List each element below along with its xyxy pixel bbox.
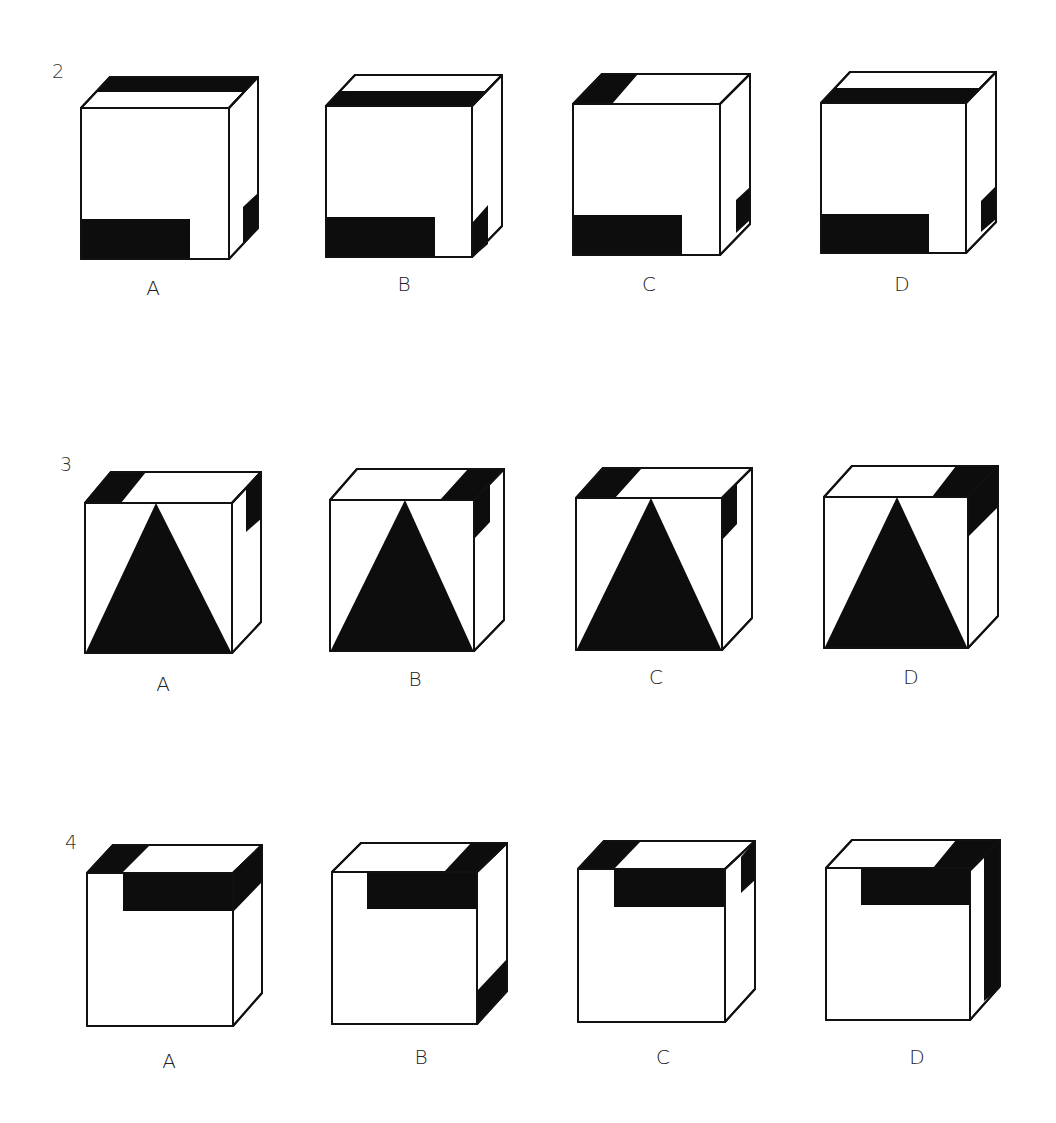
cube-2c[interactable] [573, 74, 750, 255]
cube-2a[interactable] [81, 77, 258, 259]
cube-3b[interactable] [330, 469, 504, 651]
cube-2b[interactable] [326, 75, 502, 257]
cube-4a[interactable] [87, 845, 262, 1026]
cube-4d[interactable] [826, 840, 1000, 1020]
cube-figures [0, 0, 1056, 1123]
cube-2d[interactable] [821, 72, 996, 253]
cube-3a[interactable] [85, 472, 261, 653]
cube-3c[interactable] [576, 468, 752, 650]
cube-4b[interactable] [332, 843, 507, 1024]
cube-4c[interactable] [578, 841, 755, 1022]
cube-3d[interactable] [824, 466, 998, 648]
